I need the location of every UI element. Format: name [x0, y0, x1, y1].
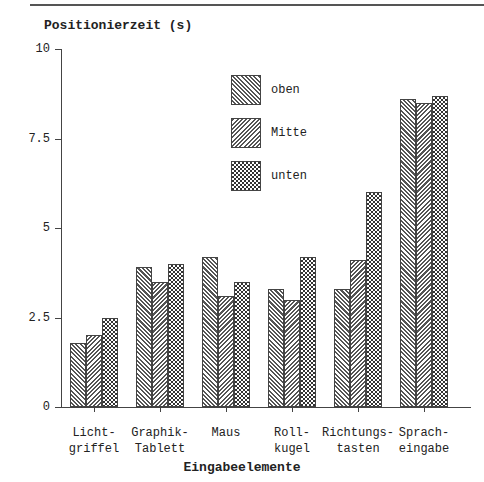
x-tick [358, 407, 359, 412]
x-tick [424, 407, 425, 412]
bar-mitte [284, 300, 300, 407]
bar-unten [102, 318, 118, 408]
bar-mitte [350, 260, 366, 407]
bar-oben [70, 343, 86, 407]
legend-swatch-mitte [231, 118, 261, 148]
bar-oben [202, 257, 218, 407]
y-tick-label: 5 [6, 221, 50, 235]
x-tick [292, 407, 293, 412]
y-tick [55, 407, 61, 408]
x-axis [61, 407, 471, 408]
legend-swatch-unten [231, 161, 261, 191]
bar-unten [366, 192, 382, 407]
x-tick [94, 407, 95, 412]
x-axis-title: Eingabeelemente [0, 460, 484, 475]
y-tick-label: 2.5 [6, 311, 50, 325]
bar-mitte [152, 282, 168, 407]
y-axis [61, 49, 62, 407]
y-tick-label: 7.5 [6, 132, 50, 146]
y-tick [55, 228, 61, 229]
bar-mitte [218, 296, 234, 407]
bar-oben [334, 289, 350, 407]
y-tick-label: 0 [6, 400, 50, 414]
legend-label: Mitte [271, 126, 307, 140]
x-tick [160, 407, 161, 412]
x-tick-label: Sprach- eingabe [384, 425, 464, 457]
legend-label: oben [271, 83, 300, 97]
y-tick [55, 318, 61, 319]
bar-oben [136, 267, 152, 407]
bar-unten [300, 257, 316, 407]
legend-swatch-oben [231, 75, 261, 105]
bar-oben [400, 99, 416, 407]
y-tick-label: 10 [6, 42, 50, 56]
bar-unten [168, 264, 184, 407]
top-rule [30, 4, 484, 6]
bar-mitte [416, 103, 432, 407]
bar-unten [234, 282, 250, 407]
y-tick [55, 139, 61, 140]
bar-mitte [86, 335, 102, 407]
bar-oben [268, 289, 284, 407]
y-tick [55, 49, 61, 50]
x-tick [226, 407, 227, 412]
bar-unten [432, 96, 448, 407]
legend-label: unten [271, 169, 307, 183]
y-axis-title: Positionierzeit (s) [44, 18, 192, 33]
